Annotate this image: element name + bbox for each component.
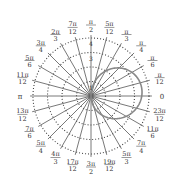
polar-graph: 134 0π12π6π4π35π12π27π122π33π45π611π12π1… <box>0 0 180 193</box>
svg-text:3: 3 <box>124 35 128 43</box>
angle-label-90: π2 <box>86 18 96 34</box>
ray-17 <box>75 96 91 155</box>
ring-label-4: 4 <box>89 40 93 47</box>
ring-label-1: 1 <box>89 84 93 91</box>
svg-text:3: 3 <box>124 158 128 166</box>
angle-label-330: 11π6 <box>146 125 159 141</box>
angle-label-105: 7π12 <box>68 20 78 36</box>
angle-label-30: π6 <box>147 54 157 70</box>
angle-label-225: 5π4 <box>36 139 46 155</box>
svg-text:12: 12 <box>155 78 163 86</box>
angle-label-45: π4 <box>136 39 146 55</box>
svg-text:3: 3 <box>53 158 57 166</box>
angle-label-180: π <box>18 93 23 101</box>
angle-label-135: 3π4 <box>36 39 46 55</box>
angle-label-300: 5π3 <box>122 150 132 166</box>
svg-text:12: 12 <box>105 28 113 36</box>
angle-label-165: 11π12 <box>16 71 29 87</box>
angle-label-210: 7π6 <box>25 125 35 141</box>
svg-text:0: 0 <box>160 93 164 101</box>
svg-text:2: 2 <box>89 26 93 34</box>
svg-text:3: 3 <box>53 35 57 43</box>
angle-label-345: 23π12 <box>153 107 166 123</box>
angle-label-315: 7π4 <box>136 139 146 155</box>
angle-label-240: 4π3 <box>51 150 61 166</box>
svg-text:4: 4 <box>139 147 143 155</box>
svg-text:12: 12 <box>155 115 163 123</box>
angle-label-285: 19π12 <box>103 158 116 174</box>
angle-label-0: 0 <box>160 93 164 101</box>
ray-13 <box>32 96 91 112</box>
angle-label-120: 2π3 <box>51 28 61 44</box>
svg-text:6: 6 <box>27 61 31 69</box>
svg-text:4: 4 <box>39 46 43 54</box>
svg-text:12: 12 <box>18 78 26 86</box>
angle-label-255: 17π12 <box>66 158 79 174</box>
angle-label-270: 3π2 <box>86 160 96 176</box>
svg-text:4: 4 <box>139 46 143 54</box>
svg-text:12: 12 <box>18 115 26 123</box>
angle-label-195: 13π12 <box>16 107 29 123</box>
svg-text:π: π <box>18 93 23 101</box>
svg-text:6: 6 <box>150 132 154 140</box>
svg-text:6: 6 <box>150 61 154 69</box>
angle-label-150: 5π6 <box>25 54 35 70</box>
svg-text:2: 2 <box>89 168 93 176</box>
svg-text:6: 6 <box>27 132 31 140</box>
angle-label-15: π12 <box>155 71 165 87</box>
svg-text:4: 4 <box>39 147 43 155</box>
svg-text:12: 12 <box>68 165 76 173</box>
angle-label-60: π3 <box>122 28 132 44</box>
ring-label-3: 3 <box>89 55 93 62</box>
svg-text:12: 12 <box>68 28 76 36</box>
svg-text:12: 12 <box>105 165 113 173</box>
angle-label-75: 5π12 <box>104 20 114 36</box>
